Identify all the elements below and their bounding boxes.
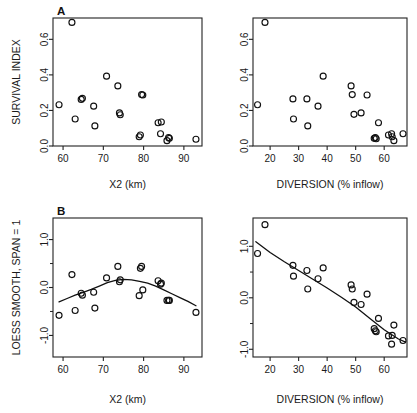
x-tick-label: 60 — [58, 153, 70, 164]
data-point — [56, 102, 62, 108]
x-tick-label: 80 — [138, 364, 150, 375]
data-point — [320, 265, 326, 271]
data-point — [69, 272, 75, 278]
x-tick-label: 60 — [379, 364, 391, 375]
y-tick-label: 0.0 — [39, 139, 50, 153]
y-tick-label: -1.0 — [239, 340, 250, 358]
data-point — [104, 73, 110, 79]
data-point — [400, 131, 406, 137]
data-point — [92, 305, 98, 311]
panel-b-loess-vs-diversion: 2030405060-1.00.01.0DIVERSION (% inflow) — [208, 198, 417, 413]
chart-panel-a-left: 607080900.00.20.40.6X2 (km)ASURVIVAL IND… — [0, 0, 208, 198]
panel-a-survival-vs-x2: 607080900.00.20.40.6X2 (km)ASURVIVAL IND… — [0, 0, 208, 198]
panel-label: A — [57, 5, 65, 17]
x-tick-label: 60 — [58, 364, 70, 375]
data-point — [193, 309, 199, 315]
data-point — [315, 276, 321, 282]
x-tick-label: 90 — [178, 153, 190, 164]
data-point — [158, 131, 164, 137]
plot-frame — [253, 18, 407, 146]
x-tick-label: 30 — [293, 153, 305, 164]
panel-a-survival-vs-diversion: 20304050600.00.20.40.6DIVERSION (% inflo… — [208, 0, 417, 198]
data-point — [348, 282, 354, 288]
data-point — [291, 116, 297, 122]
data-point — [262, 19, 268, 25]
y-tick-label: 0.6 — [239, 32, 250, 46]
x-axis-title: DIVERSION (% inflow) — [277, 393, 384, 405]
data-point — [315, 103, 321, 109]
y-tick-label: 0.2 — [39, 103, 50, 117]
x-tick-label: 80 — [138, 153, 150, 164]
y-tick-label: 0.4 — [239, 68, 250, 82]
panel-b-loess-vs-x2: 60708090-1.00.01.0X2 (km)BLOESS SMOOTH, … — [0, 198, 208, 413]
x-tick-label: 50 — [350, 153, 362, 164]
data-point — [304, 96, 310, 102]
data-point — [358, 301, 364, 307]
panel-label: B — [57, 205, 65, 217]
x-tick-label: 20 — [265, 153, 277, 164]
data-point — [193, 136, 199, 142]
x-axis-title: DIVERSION (% inflow) — [277, 178, 384, 190]
data-point — [358, 110, 364, 116]
data-point — [91, 103, 97, 109]
plot-frame — [253, 218, 407, 357]
y-axis-title: SURVIVAL INDEX — [10, 39, 22, 125]
data-point — [349, 286, 355, 292]
data-point — [389, 341, 395, 347]
data-point — [115, 83, 121, 89]
x-tick-label: 70 — [98, 153, 110, 164]
data-point — [348, 83, 354, 89]
x-tick-label: 50 — [350, 364, 362, 375]
x-tick-label: 40 — [322, 364, 334, 375]
plot-frame — [53, 18, 202, 146]
data-point — [290, 96, 296, 102]
fit-curve-loess-span-1 — [59, 279, 196, 305]
x-tick-label: 20 — [265, 364, 277, 375]
data-point — [364, 92, 370, 98]
data-point — [92, 123, 98, 129]
data-point — [375, 120, 381, 126]
data-point — [72, 308, 78, 314]
y-axis-title: LOESS SMOOTH, SPAN = 1 — [10, 220, 22, 356]
plot-frame — [53, 218, 202, 357]
data-point — [391, 322, 397, 328]
x-axis-title: X2 (km) — [109, 178, 146, 190]
data-point — [140, 287, 146, 293]
x-tick-label: 30 — [293, 364, 305, 375]
data-point — [115, 263, 121, 269]
data-point — [305, 123, 311, 129]
data-point — [364, 291, 370, 297]
data-point — [69, 19, 75, 25]
data-point — [255, 102, 261, 108]
data-point — [56, 312, 62, 318]
data-point — [320, 73, 326, 79]
data-point — [255, 251, 261, 257]
chart-panel-b-left: 60708090-1.00.01.0X2 (km)BLOESS SMOOTH, … — [0, 198, 208, 413]
data-point — [349, 92, 355, 98]
y-tick-label: 1.0 — [39, 232, 50, 246]
data-point — [104, 275, 110, 281]
x-tick-label: 60 — [379, 153, 391, 164]
y-tick-label: 0.6 — [39, 32, 50, 46]
y-tick-label: 0.0 — [239, 139, 250, 153]
y-tick-label: 1.0 — [239, 239, 250, 253]
data-point — [351, 299, 357, 305]
data-point — [72, 116, 78, 122]
x-tick-label: 90 — [178, 364, 190, 375]
data-point — [136, 293, 142, 299]
y-tick-label: 0.0 — [239, 290, 250, 304]
y-tick-label: 0.2 — [239, 103, 250, 117]
data-point — [375, 315, 381, 321]
y-tick-label: 0.0 — [39, 280, 50, 294]
figure-root: 607080900.00.20.40.6X2 (km)ASURVIVAL IND… — [0, 0, 417, 413]
data-point — [139, 263, 145, 269]
y-tick-label: -1.0 — [39, 326, 50, 344]
data-point — [305, 286, 311, 292]
fit-curve-loess-span-1 — [256, 242, 406, 342]
data-point — [304, 268, 310, 274]
data-point — [291, 273, 297, 279]
x-axis-title: X2 (km) — [109, 393, 146, 405]
data-point — [262, 222, 268, 228]
data-point — [91, 289, 97, 295]
chart-panel-a-right: 20304050600.00.20.40.6DIVERSION (% inflo… — [208, 0, 417, 198]
